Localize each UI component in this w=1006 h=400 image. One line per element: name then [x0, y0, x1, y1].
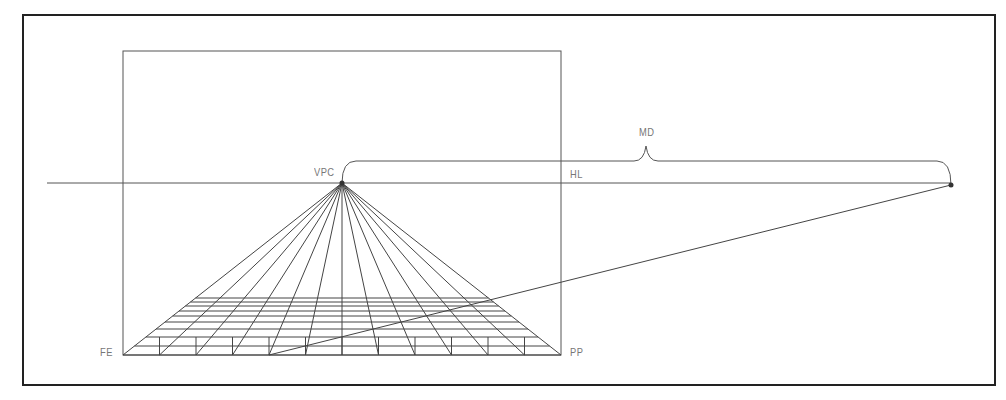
measuring-point-marker [949, 183, 954, 188]
pp-label: PP [570, 346, 583, 358]
fe-label: FE [100, 346, 113, 358]
vpc-label: VPC [314, 166, 335, 178]
perspective-diagram [0, 0, 1006, 400]
measuring-distance-brace [342, 146, 951, 185]
hl-label: HL [570, 168, 583, 180]
md-label: MD [639, 126, 654, 138]
vanishing-point-marker [340, 181, 345, 186]
